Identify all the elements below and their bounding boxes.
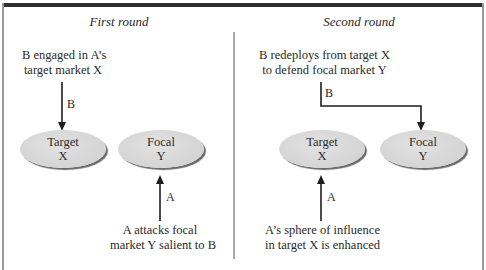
annotation-line: to defend focal market Y bbox=[252, 63, 397, 78]
node-line: X bbox=[279, 149, 365, 163]
arrow-a-to-target-round2 bbox=[317, 175, 325, 221]
panel-heading: Second round bbox=[259, 14, 459, 30]
annotation-line: market Y salient to B bbox=[110, 238, 210, 253]
node-focal-y: Focal Y bbox=[380, 130, 466, 168]
bottom-annotation: A attacks focal market Y salient to B bbox=[110, 223, 210, 253]
node-line: Target bbox=[279, 135, 365, 149]
node-line: Focal bbox=[380, 135, 466, 149]
arrow-b-to-focal-round2 bbox=[321, 82, 425, 131]
annotation-line: in target X is enhanced bbox=[265, 238, 380, 253]
node-line: Y bbox=[380, 149, 466, 163]
top-annotation: B engaged in A’s target market X bbox=[22, 48, 104, 78]
arrow-label-b: B bbox=[325, 86, 333, 101]
arrow-label-b: B bbox=[67, 97, 75, 112]
annotation-line: target market X bbox=[22, 63, 104, 78]
node-line: Target bbox=[20, 135, 106, 149]
annotation-line: A attacks focal bbox=[110, 223, 210, 238]
annotation-line: B redeploys from target X bbox=[252, 48, 397, 63]
panel-heading: First round bbox=[19, 14, 219, 30]
top-annotation: B redeploys from target X to defend foca… bbox=[252, 48, 397, 78]
node-target-x: Target X bbox=[279, 130, 365, 168]
node-focal-y: Focal Y bbox=[118, 130, 204, 168]
node-line: Y bbox=[118, 149, 204, 163]
node-line: Focal bbox=[118, 135, 204, 149]
arrow-b-to-target-round1 bbox=[58, 82, 66, 131]
annotation-line: A’s sphere of influence bbox=[265, 223, 380, 238]
arrow-label-a: A bbox=[166, 190, 175, 205]
arrow-a-to-focal-round1 bbox=[156, 175, 164, 221]
arrow-label-a: A bbox=[327, 190, 336, 205]
node-line: X bbox=[20, 149, 106, 163]
bottom-annotation: A’s sphere of influence in target X is e… bbox=[265, 223, 380, 253]
annotation-line: B engaged in A’s bbox=[22, 48, 104, 63]
node-target-x: Target X bbox=[20, 130, 106, 168]
